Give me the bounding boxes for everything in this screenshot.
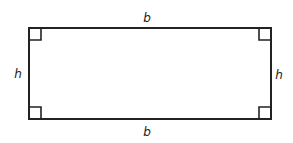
right-angle-marker-top-right <box>259 28 271 40</box>
right-angle-marker-bottom-left <box>29 107 41 119</box>
label-right-height: h <box>275 68 283 82</box>
label-top-base: b <box>143 11 151 25</box>
label-left-height: h <box>14 67 22 81</box>
right-angle-marker-bottom-right <box>259 107 271 119</box>
rectangle-diagram: b b h h <box>0 0 293 143</box>
label-bottom-base: b <box>143 125 151 139</box>
rectangle-outline <box>29 28 271 119</box>
right-angle-marker-top-left <box>29 28 41 40</box>
